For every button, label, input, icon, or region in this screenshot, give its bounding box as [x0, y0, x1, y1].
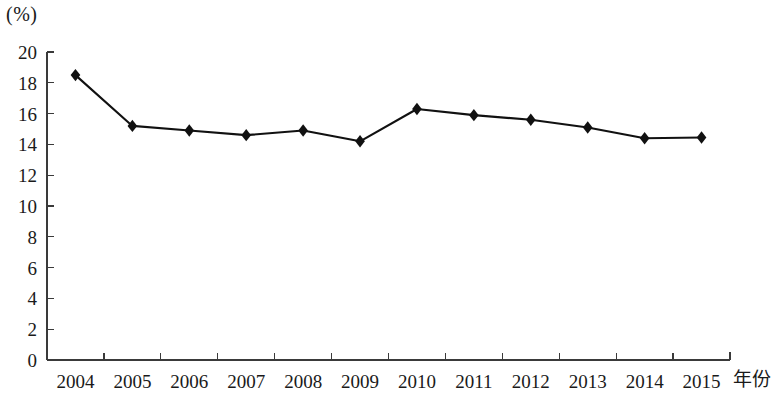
y-tick-label: 0 [3, 351, 37, 370]
x-tick-label: 2012 [512, 372, 550, 391]
data-point-marker [298, 124, 308, 136]
x-tick-label: 2010 [398, 372, 436, 391]
series-line [75, 75, 701, 141]
x-tick-label: 2014 [626, 372, 664, 391]
data-point-marker [469, 109, 479, 121]
data-point-markers [71, 69, 707, 148]
line-chart: (%) 02468101214161820 200420052006200720… [0, 0, 776, 400]
chart-plot-area [0, 0, 776, 400]
x-tick-label: 2005 [113, 372, 151, 391]
data-point-marker [640, 132, 650, 144]
x-tick-label: 2013 [569, 372, 607, 391]
y-tick-label: 18 [3, 74, 37, 93]
x-tick-label: 2008 [284, 372, 322, 391]
y-tick-label: 4 [3, 289, 37, 308]
y-tick-label: 16 [3, 105, 37, 124]
y-tick-label: 12 [3, 166, 37, 185]
x-axis-title: 年份 [733, 368, 771, 390]
x-tick-label: 2015 [683, 372, 721, 391]
data-point-marker [184, 124, 194, 136]
y-tick-label: 20 [3, 43, 37, 62]
data-point-marker [355, 135, 365, 147]
y-tick-label: 14 [3, 135, 37, 154]
axis-lines [47, 52, 730, 360]
data-series-line [75, 75, 701, 141]
y-tick-label: 6 [3, 259, 37, 278]
y-tick-label: 8 [3, 228, 37, 247]
x-tick-label: 2011 [455, 372, 492, 391]
data-point-marker [697, 131, 707, 143]
data-point-marker [412, 103, 422, 115]
data-point-marker [526, 114, 536, 126]
x-tick-label: 2004 [56, 372, 94, 391]
y-tick-label: 10 [3, 197, 37, 216]
x-tick-label: 2006 [170, 372, 208, 391]
x-tick-label: 2007 [227, 372, 265, 391]
data-point-marker [583, 121, 593, 133]
data-point-marker [241, 129, 251, 141]
y-tick-label: 2 [3, 320, 37, 339]
x-tick-label: 2009 [341, 372, 379, 391]
